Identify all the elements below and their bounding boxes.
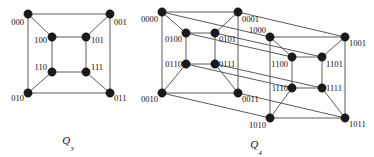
graph-vertex [288,53,296,61]
graph-caption: Q3 [62,134,74,153]
graph-vertex [341,114,349,122]
graph-caption: Q4 [250,138,262,156]
vertex-label: 0100 [165,34,182,44]
graph-caption-subscript: 4 [258,149,262,157]
vertex-label: 1111 [326,83,342,93]
graph-vertex [24,10,32,18]
graph-vertex [24,89,32,97]
vertex-label: 1100 [271,59,288,69]
vertex-label: 111 [91,62,103,72]
vertex-label: 0101 [219,34,236,44]
graph-vertex [211,29,219,37]
vertex-label: 0000 [141,14,158,24]
vertex-label: 100 [34,35,47,45]
vertex-label: 1001 [349,38,366,48]
graph-edge [322,37,345,57]
vertex-label: 011 [114,93,126,103]
graph-caption-subscript: 3 [69,145,74,153]
vertex-label: 1110 [272,83,288,93]
graph-vertex [106,10,114,18]
graph-vertex [234,8,242,16]
graph-vertex [211,60,219,68]
graph-vertex [182,29,190,37]
graph-edge [28,72,52,93]
graph-vertex [158,89,166,97]
vertex-label: 1011 [349,119,366,129]
vertex-label: 1000 [249,25,266,35]
vertex-label: 101 [91,35,104,45]
graph-vertex [48,33,56,41]
graph-vertex [266,33,274,41]
graph-vertex [106,89,114,97]
vertex-label-layer: 0000000100100011010001010110011110001001… [141,14,366,130]
graph-edge [86,14,110,37]
graph-edge [28,14,52,37]
vertex-label: 0110 [165,59,182,69]
graph-vertex [48,68,56,76]
vertex-label: 0010 [141,94,158,104]
graph-vertex [82,68,90,76]
vertex-label: 1010 [249,120,266,130]
graph-vertex [234,89,242,97]
vertex-label: 010 [11,93,24,103]
graph-edge [215,12,238,33]
vertex-label: 0011 [242,94,259,104]
graph-vertex [318,84,326,92]
hypercube-figure: 000001010011100101110111Q300000001001000… [0,0,374,156]
vertex-label: 0111 [219,59,235,69]
edge-layer [28,14,110,93]
graph-vertex [82,33,90,41]
graph-vertex [158,8,166,16]
graph-vertex [341,33,349,41]
graph-canvas: 000001010011100101110111Q300000001001000… [0,0,374,156]
vertex-label: 110 [35,62,47,72]
graph-vertex [266,114,274,122]
graph-vertex [182,60,190,68]
graph-q4: 0000000100100011010001010110011110001001… [141,8,366,156]
vertex-label: 001 [114,17,127,27]
vertex-label: 0001 [242,14,259,24]
graph-edge [86,72,110,93]
graph-q3: 000001010011100101110111Q3 [11,10,127,153]
vertex-label: 1101 [326,59,343,69]
graph-vertex [318,53,326,61]
vertex-label: 000 [11,17,24,27]
graph-vertex [288,84,296,92]
